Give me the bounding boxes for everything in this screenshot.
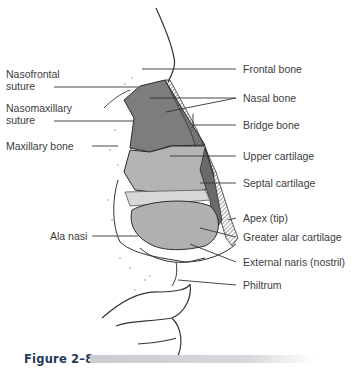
label-external-naris: External naris (nostril) bbox=[243, 256, 345, 268]
label-septal-cartilage: Septal cartilage bbox=[243, 177, 315, 189]
figure-caption: Figure 2–8 bbox=[24, 352, 93, 366]
upper-lip bbox=[102, 284, 190, 326]
greater-alar-cartilage-region bbox=[131, 201, 218, 250]
caption-rule-bar bbox=[90, 355, 315, 363]
label-upper-cartilage: Upper cartilage bbox=[243, 150, 314, 162]
label-nasofrontal-suture: Nasofrontalsuture bbox=[6, 68, 60, 92]
label-ala-nasi: Ala nasi bbox=[50, 230, 87, 242]
label-frontal-bone: Frontal bone bbox=[243, 63, 302, 75]
label-maxillary-bone: Maxillary bone bbox=[6, 140, 74, 152]
label-apex-tip: Apex (tip) bbox=[243, 212, 288, 224]
forehead-profile-line bbox=[156, 8, 175, 82]
label-nasal-bone: Nasal bone bbox=[243, 92, 296, 104]
label-bridge-bone: Bridge bone bbox=[243, 119, 300, 131]
columella-line bbox=[172, 262, 177, 286]
label-philtrum: Philtrum bbox=[243, 279, 282, 291]
chin-line bbox=[138, 338, 176, 344]
label-greater-alar-cartilage: Greater alar cartilage bbox=[243, 231, 342, 243]
label-nasomaxillary-suture: Nasomaxillarysuture bbox=[6, 102, 72, 126]
